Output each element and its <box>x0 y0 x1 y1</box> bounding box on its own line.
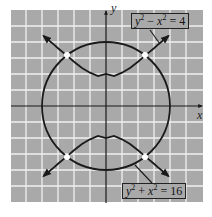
eq-value: = 16 <box>160 184 182 198</box>
intersection-point <box>64 52 69 57</box>
circle-equation-label: y2 + x2 = 16 <box>122 183 186 199</box>
hyperbola-equation-label: y2 − x2 = 4 <box>131 13 189 29</box>
eq-exponent: 2 <box>153 183 157 192</box>
y-axis-label: y <box>111 1 116 16</box>
intersection-point <box>142 154 147 159</box>
eq-operator: + <box>138 184 145 198</box>
eq-exponent: 2 <box>131 183 135 192</box>
x-axis-label: x <box>197 108 202 123</box>
eq-value: = 4 <box>169 14 185 28</box>
eq-exponent: 2 <box>162 13 166 22</box>
eq-operator: − <box>147 14 154 28</box>
eq-exponent: 2 <box>140 13 144 22</box>
intersection-point <box>64 154 69 159</box>
intersection-point <box>142 52 147 57</box>
